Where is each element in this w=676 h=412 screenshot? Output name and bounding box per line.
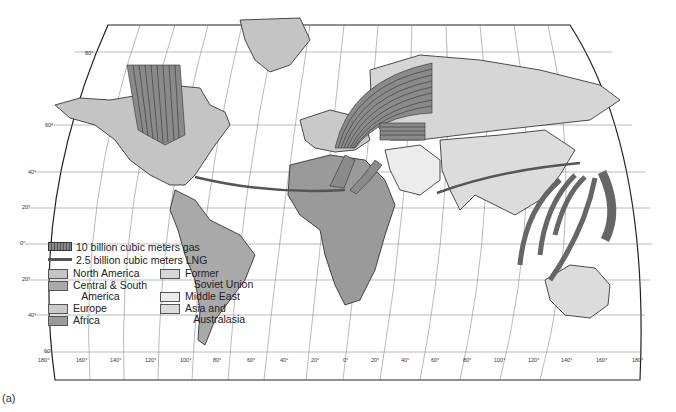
legend-gas: 10 billion cubic meters gas: [48, 240, 207, 253]
svg-text:80°: 80°: [463, 357, 471, 363]
svg-text:20°: 20°: [311, 357, 319, 363]
svg-text:0°: 0°: [343, 357, 348, 363]
svg-text:180°: 180°: [38, 357, 49, 363]
svg-text:120°: 120°: [528, 357, 539, 363]
svg-text:60°: 60°: [45, 122, 53, 128]
region-africa: Africa: [48, 315, 156, 326]
svg-text:40°: 40°: [401, 357, 409, 363]
region-swatch-icon: [48, 304, 68, 314]
svg-text:100°: 100°: [494, 357, 505, 363]
svg-text:20°: 20°: [371, 357, 379, 363]
svg-text:20°: 20°: [22, 204, 30, 210]
world-map: 80° 60° 40° 20° 0° 20° 40° 60° 180° 160°…: [0, 0, 676, 412]
figure-caption: (a): [2, 392, 15, 404]
region-legend: North America Central & South America Eu…: [48, 268, 280, 327]
region-central-south-america: Central & South America: [48, 280, 156, 302]
legend-lng: 2.5 billion cubic meters LNG: [48, 253, 207, 266]
region-swatch-icon: [160, 269, 180, 279]
region-middle-east: Middle East: [160, 291, 280, 302]
svg-text:80°: 80°: [85, 50, 93, 56]
flow-legend: 10 billion cubic meters gas 2.5 billion …: [48, 240, 207, 266]
svg-text:180°: 180°: [632, 357, 643, 363]
region-europe: Europe: [48, 303, 156, 314]
svg-text:40°: 40°: [28, 169, 36, 175]
legend-lng-label: 2.5 billion cubic meters LNG: [76, 254, 207, 266]
svg-text:60°: 60°: [44, 348, 52, 354]
region-swatch-icon: [48, 316, 68, 326]
region-swatch-icon: [160, 292, 180, 302]
svg-text:160°: 160°: [76, 357, 87, 363]
region-swatch-icon: [160, 304, 180, 314]
lng-swatch-icon: [48, 258, 72, 261]
svg-text:100°: 100°: [180, 357, 191, 363]
region-swatch-icon: [48, 269, 68, 279]
svg-text:60°: 60°: [247, 357, 255, 363]
svg-text:160°: 160°: [596, 357, 607, 363]
svg-text:140°: 140°: [561, 357, 572, 363]
svg-text:60°: 60°: [431, 357, 439, 363]
svg-text:80°: 80°: [213, 357, 221, 363]
svg-text:120°: 120°: [145, 357, 156, 363]
region-north-america: North America: [48, 268, 156, 279]
flow-fsu-central-europe: [380, 123, 425, 140]
region-former-soviet-union: Former Soviet Union: [160, 268, 280, 290]
region-swatch-icon: [48, 281, 68, 291]
svg-text:0°: 0°: [20, 240, 25, 246]
svg-text:20°: 20°: [22, 276, 30, 282]
region-asia-australasia: Asia and Australasia: [160, 303, 280, 325]
svg-text:40°: 40°: [280, 357, 288, 363]
gas-swatch-icon: [48, 242, 72, 251]
svg-text:40°: 40°: [28, 312, 36, 318]
legend-gas-label: 10 billion cubic meters gas: [76, 241, 200, 253]
svg-text:140°: 140°: [110, 357, 121, 363]
